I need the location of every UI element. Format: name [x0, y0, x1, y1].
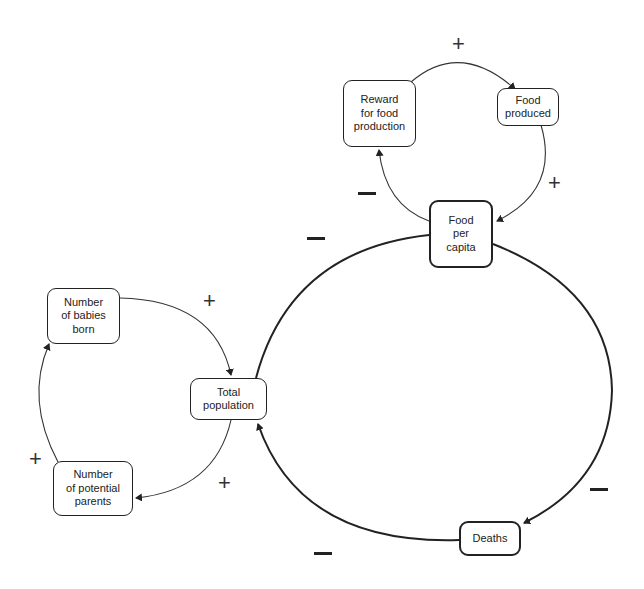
node-deaths: Deaths — [459, 521, 521, 556]
node-number-of-babies-born: Number of babies born — [47, 288, 120, 344]
minus-sign — [590, 488, 608, 491]
node-label: Deaths — [473, 532, 508, 546]
node-number-of-potential-parents: Number of potential parents — [53, 461, 133, 516]
node-label: Total population — [203, 386, 254, 413]
plus-sign: + — [548, 172, 561, 194]
node-label: Number of potential parents — [66, 468, 120, 509]
plus-sign: + — [452, 33, 465, 55]
link-deaths-to-total-population — [258, 424, 459, 540]
node-label: Food produced — [505, 94, 551, 121]
plus-sign: + — [203, 290, 216, 312]
plus-sign: + — [218, 472, 231, 494]
link-food-per-capita-to-deaths — [493, 244, 612, 523]
link-food-per-capita-to-reward — [379, 150, 429, 221]
link-total-population-to-parents — [136, 420, 231, 498]
plus-sign: + — [29, 448, 42, 470]
link-food-produced-to-food-per-capita — [497, 125, 545, 221]
node-label: Food per capita — [446, 214, 475, 255]
link-total-population-to-food-per-capita — [256, 235, 429, 378]
link-reward-to-food-produced — [411, 63, 515, 89]
minus-sign — [307, 237, 325, 240]
node-reward-for-food-production: Reward for food production — [343, 80, 416, 147]
node-food-produced: Food produced — [497, 88, 559, 126]
node-label: Reward for food production — [354, 93, 405, 134]
minus-sign — [358, 192, 376, 195]
node-food-per-capita: Food per capita — [429, 200, 493, 268]
node-label: Number of babies born — [61, 296, 106, 337]
minus-sign — [314, 552, 332, 555]
link-parents-to-babies — [39, 344, 58, 462]
node-total-population: Total population — [190, 378, 267, 420]
